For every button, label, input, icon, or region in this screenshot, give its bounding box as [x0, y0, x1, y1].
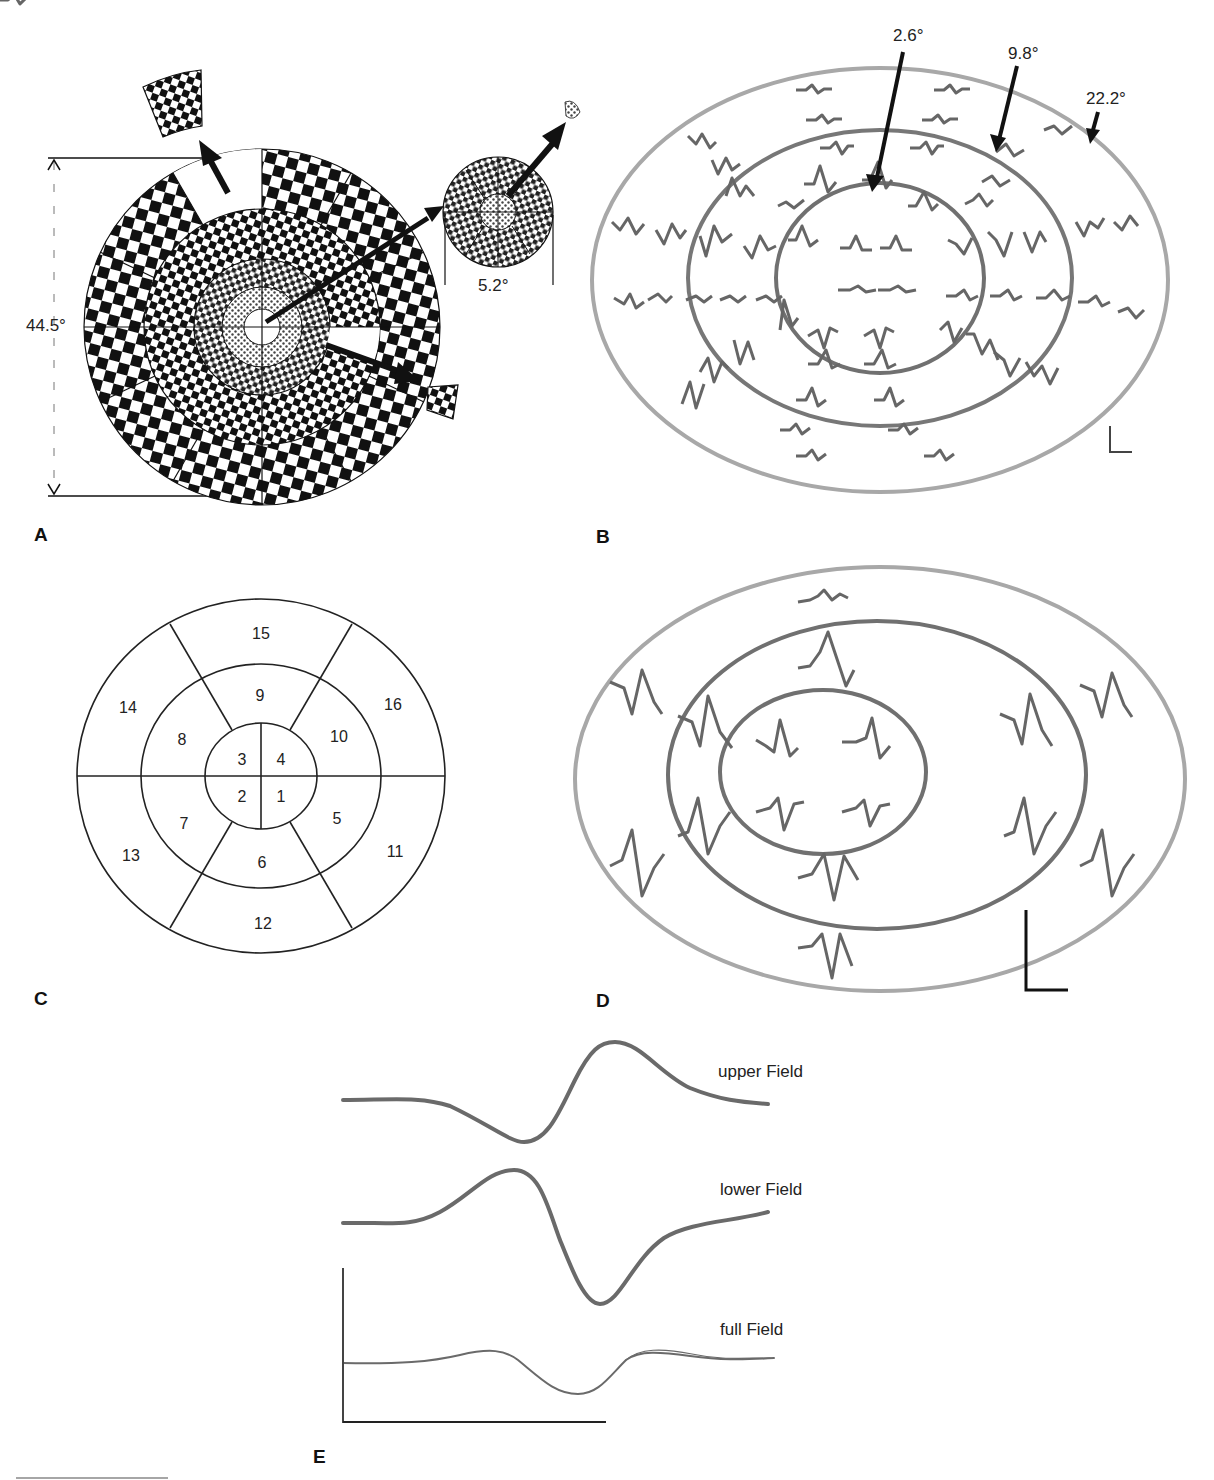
segment-label-4: 4 — [277, 751, 286, 769]
ring-label-outer: 22.2° — [1086, 89, 1126, 109]
panel-letter-a: A — [34, 524, 48, 546]
segment-label-6: 6 — [258, 854, 267, 872]
segment-label-5: 5 — [333, 810, 342, 828]
segment-label-15: 15 — [252, 625, 270, 643]
center-stimulus-label: 5.2° — [478, 276, 508, 296]
diameter-label: 44.5° — [26, 316, 66, 336]
segment-label-14: 14 — [119, 699, 137, 717]
dartboard-stimulus — [0, 0, 600, 540]
segment-label-11: 11 — [387, 843, 404, 861]
segment-label-13: 13 — [122, 847, 140, 865]
segment-label-16: 16 — [384, 696, 402, 714]
lower-field-label: lower Field — [720, 1180, 802, 1200]
panel-letter-c: C — [34, 988, 48, 1010]
upper-field-label: upper Field — [718, 1062, 803, 1082]
segment-label-2: 2 — [238, 788, 247, 806]
segment-label-7: 7 — [180, 815, 189, 833]
full-field-trace — [343, 1351, 774, 1394]
ring-label-inner: 2.6° — [893, 26, 923, 46]
segment-label-1: 1 — [277, 788, 286, 806]
lower-field-trace — [343, 1170, 768, 1304]
segment-label-9: 9 — [256, 687, 265, 705]
upper-field-trace — [343, 1042, 768, 1142]
segment-label-10: 10 — [330, 728, 348, 746]
panel-letter-d: D — [596, 990, 610, 1012]
panel-letter-b: B — [596, 526, 610, 548]
full-field-label: full Field — [720, 1320, 783, 1340]
ring-label-middle: 9.8° — [1008, 44, 1038, 64]
segment-label-12: 12 — [254, 915, 272, 933]
segment-label-8: 8 — [178, 731, 187, 749]
panel-letter-e: E — [313, 1446, 326, 1468]
segment-label-3: 3 — [238, 751, 247, 769]
